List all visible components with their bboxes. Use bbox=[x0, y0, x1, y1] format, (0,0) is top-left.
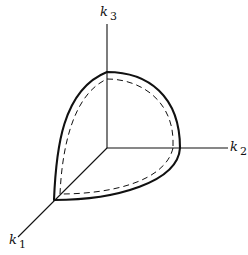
k1-axis bbox=[18, 148, 107, 237]
k2-axis-label: k2 bbox=[230, 140, 247, 153]
k3-axis-label: k3 bbox=[100, 5, 117, 18]
octant-diagram bbox=[0, 0, 248, 255]
k1-axis-label: k1 bbox=[9, 233, 26, 246]
outer-surface-curve bbox=[54, 72, 180, 200]
